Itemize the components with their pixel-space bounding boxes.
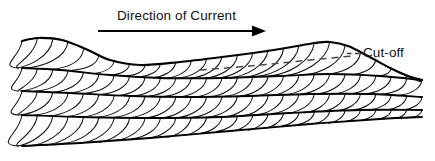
bounding-surface-3 [22,110,422,118]
lamina-set-2-11 [164,78,192,97]
lamina-set-4-23 [363,110,376,120]
lamina-set-3-2 [18,92,52,115]
lamina-set-2-17 [256,76,283,96]
lamina-set-1-23 [352,59,376,74]
lamina-set-3-0 [11,91,22,115]
lamina-set-2-12 [179,78,206,97]
cut-off-label: Cut-off [363,45,404,60]
lamina-set-1-24 [379,68,391,76]
lamina-set-2-5 [70,74,99,93]
lamina-set-2-21 [317,74,345,94]
lamina-set-2-8 [118,77,145,95]
lamina-set-1-3 [26,41,68,68]
lamina-set-4-9 [132,118,161,139]
lamina-set-3-14 [208,96,237,117]
lamina-set-3-15 [225,96,253,117]
lamina-set-1-8 [127,65,145,76]
lamina-set-2-15 [225,77,253,97]
lamina-set-3-10 [146,97,176,118]
lamina-set-2-0 [11,68,22,91]
lamina-set-3-13 [192,96,222,117]
lamina-set-2-10 [148,78,175,96]
lamina-set-3-20 [305,94,330,113]
lamina-set-2-24 [365,77,392,94]
cut-off-surface [200,56,352,70]
lamina-set-3-6 [82,96,114,117]
lamina-set-2-14 [211,78,238,97]
lamina-set-3-3 [34,93,69,115]
lamina-set-4-13 [201,117,222,133]
cross-bedding-diagram [0,0,435,161]
lamina-set-3-11 [162,97,192,118]
lamina-set-2-6 [85,75,115,93]
lamina-set-2-23 [350,76,376,94]
lamina-set-3-9 [129,97,160,118]
current-arrow-group [98,26,266,37]
cut-off-surface-group [200,56,352,70]
lamina-set-3-4 [49,93,83,116]
lamina-set-3-18 [272,94,299,113]
lamina-set-2-13 [195,78,222,97]
lamina-set-1-0 [10,41,22,68]
lamina-set-2-19 [286,74,314,94]
lamina-set-3-24 [370,95,392,110]
right-arrow-icon [252,26,266,37]
lamina-set-2-9 [134,78,161,96]
lamina-set-4-10 [149,118,176,138]
lamina-layer [8,38,422,146]
figure-root: Direction of Current Cut-off [0,0,435,161]
lamina-set-4-1 [17,115,38,146]
lamina-set-1-7 [112,64,130,75]
lamina-set-2-7 [101,76,130,95]
lamina-set-4-18 [282,113,299,126]
lamina-set-1-1 [17,38,38,68]
lamina-set-2-20 [301,74,330,94]
lamina-set-3-19 [288,94,314,113]
lamina-set-3-12 [177,97,206,118]
lamina-set-2-4 [53,72,84,92]
lamina-set-4-2 [18,116,53,146]
lamina-set-4-14 [216,116,237,131]
lamina-set-2-16 [240,76,268,96]
lamina-set-2-22 [333,75,360,94]
lamina-set-4-19 [297,112,314,124]
current-direction-label: Direction of Current [117,8,236,23]
